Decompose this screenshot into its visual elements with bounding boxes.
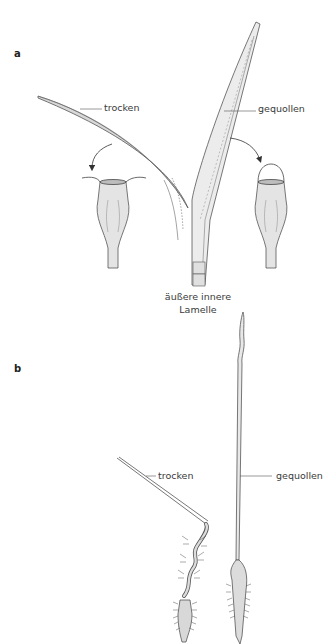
figure-drawing: [0, 0, 334, 644]
swollen-peristome-tooth-b: [231, 312, 247, 644]
arrow-close-right: [230, 138, 260, 160]
swollen-peristome-tooth-a: [192, 22, 260, 286]
capsule-closed-a: [255, 164, 287, 268]
capsule-open-a: [82, 177, 146, 268]
dry-peristome-tooth-b: [117, 457, 208, 642]
arrow-close-left: [92, 144, 112, 168]
